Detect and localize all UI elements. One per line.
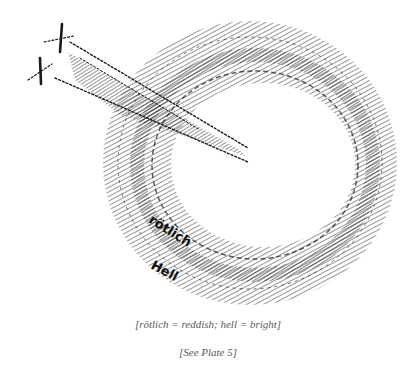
hatched-ring-drawing: rötlich Hell bbox=[0, 0, 416, 310]
translation-caption: [rötlich = reddish; hell = bright] bbox=[0, 318, 416, 330]
plate-reference-caption: [See Plate 5] bbox=[0, 346, 416, 358]
ring-hatching bbox=[0, 0, 416, 310]
